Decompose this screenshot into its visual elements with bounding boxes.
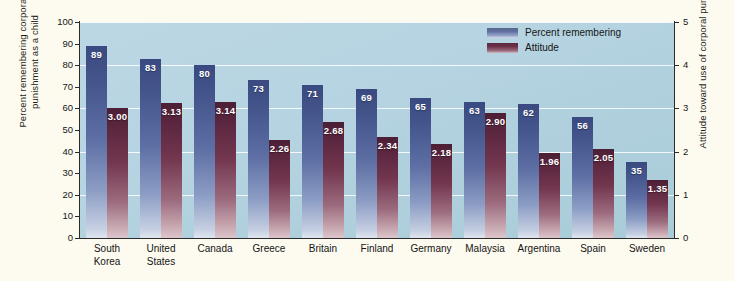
bar-attitude[interactable]: 1.96: [539, 153, 560, 238]
y-axis-right-tick-label: 4: [683, 59, 703, 70]
bar-value-label: 89: [86, 49, 107, 60]
bar-attitude[interactable]: 2.05: [593, 149, 614, 238]
legend-item[interactable]: Attitude: [487, 42, 621, 53]
bar-value-label: 3.13: [161, 106, 182, 117]
y-axis-left-title: Percent remembering corporal punishment …: [17, 0, 41, 167]
bar-value-label: 2.34: [377, 140, 398, 151]
bar-attitude[interactable]: 3.14: [215, 102, 236, 238]
bar-percent-remembering[interactable]: 80: [194, 65, 215, 238]
axis-spine-right: [674, 21, 675, 239]
y-axis-left-tick-label: 30: [45, 167, 73, 178]
bar-value-label: 2.90: [485, 116, 506, 127]
bar-value-label: 63: [464, 105, 485, 116]
y-axis-right-tick-label: 1: [683, 189, 703, 200]
bar-group: 652.18: [404, 22, 458, 238]
tick-mark: [75, 152, 79, 153]
bar-value-label: 1.35: [647, 183, 668, 194]
y-axis-left-tick-label: 80: [45, 59, 73, 70]
bar-value-label: 3.14: [215, 105, 236, 116]
chart-figure: Percent remembering corporal punishment …: [0, 0, 734, 281]
tick-mark: [75, 238, 79, 239]
y-axis-left-tick-label: 20: [45, 189, 73, 200]
tick-mark: [75, 130, 79, 131]
tick-mark: [75, 195, 79, 196]
bar-attitude[interactable]: 2.18: [431, 144, 452, 238]
bar-group: 692.34: [350, 22, 404, 238]
bar-value-label: 2.68: [323, 125, 344, 136]
bar-group: 803.14: [188, 22, 242, 238]
legend-color-swatch: [487, 28, 518, 38]
bar-value-label: 1.96: [539, 156, 560, 167]
legend-item[interactable]: Percent remembering: [487, 27, 621, 38]
chart-legend: Percent rememberingAttitude: [487, 27, 621, 57]
bar-attitude[interactable]: 3.13: [161, 103, 182, 238]
bar-attitude[interactable]: 1.35: [647, 180, 668, 238]
y-axis-right-tick-label: 2: [683, 146, 703, 157]
axis-spine-left: [79, 21, 80, 239]
bar-percent-remembering[interactable]: 63: [464, 102, 485, 238]
tick-mark: [75, 44, 79, 45]
bar-group: 732.26: [242, 22, 296, 238]
tick-mark: [75, 87, 79, 88]
tick-mark: [675, 22, 679, 23]
bar-value-label: 71: [302, 88, 323, 99]
bar-value-label: 65: [410, 101, 431, 112]
tick-mark: [75, 173, 79, 174]
bar-value-label: 2.18: [431, 147, 452, 158]
tick-mark: [675, 65, 679, 66]
tick-mark: [75, 65, 79, 66]
bar-percent-remembering[interactable]: 35: [626, 162, 647, 238]
bar-value-label: 73: [248, 83, 269, 94]
y-axis-left-tick-label: 10: [45, 210, 73, 221]
x-axis-tick-label: Sweden: [612, 243, 682, 256]
y-axis-right-tick-label: 5: [683, 16, 703, 27]
y-axis-left-tick-label: 0: [45, 232, 73, 243]
bar-group: 351.35: [620, 22, 674, 238]
bar-group: 712.68: [296, 22, 350, 238]
y-axis-left-tick-label: 60: [45, 102, 73, 113]
y-axis-left-tick-label: 40: [45, 146, 73, 157]
bar-value-label: 35: [626, 165, 647, 176]
tick-mark: [75, 22, 79, 23]
axis-spine-bottom: [79, 238, 675, 239]
bar-value-label: 2.05: [593, 152, 614, 163]
legend-label: Attitude: [525, 42, 559, 53]
bar-attitude[interactable]: 2.68: [323, 122, 344, 238]
bar-value-label: 62: [518, 107, 539, 118]
y-axis-left-tick-label: 50: [45, 124, 73, 135]
bar-percent-remembering[interactable]: 65: [410, 98, 431, 238]
tick-mark: [675, 238, 679, 239]
bar-percent-remembering[interactable]: 69: [356, 89, 377, 238]
tick-mark: [75, 216, 79, 217]
bar-group: 893.00: [80, 22, 134, 238]
tick-mark: [675, 195, 679, 196]
tick-mark: [675, 108, 679, 109]
bar-attitude[interactable]: 3.00: [107, 108, 128, 238]
bar-value-label: 3.00: [107, 111, 128, 122]
legend-label: Percent remembering: [525, 27, 621, 38]
bar-percent-remembering[interactable]: 71: [302, 85, 323, 238]
bar-value-label: 80: [194, 68, 215, 79]
bar-value-label: 83: [140, 62, 161, 73]
bar-percent-remembering[interactable]: 73: [248, 80, 269, 238]
y-axis-right-tick-label: 3: [683, 102, 703, 113]
y-axis-left-tick-label: 100: [45, 16, 73, 27]
y-axis-left-tick-label: 90: [45, 38, 73, 49]
bar-value-label: 56: [572, 120, 593, 131]
bar-attitude[interactable]: 2.90: [485, 113, 506, 238]
bar-percent-remembering[interactable]: 62: [518, 104, 539, 238]
bar-attitude[interactable]: 2.34: [377, 137, 398, 238]
bar-value-label: 2.26: [269, 143, 290, 154]
tick-mark: [675, 152, 679, 153]
tick-mark: [75, 108, 79, 109]
bar-group: 833.13: [134, 22, 188, 238]
bar-value-label: 69: [356, 92, 377, 103]
legend-color-swatch: [487, 43, 518, 53]
bar-percent-remembering[interactable]: 83: [140, 59, 161, 238]
bar-attitude[interactable]: 2.26: [269, 140, 290, 238]
y-axis-left-tick-label: 70: [45, 81, 73, 92]
y-axis-right-tick-label: 0: [683, 232, 703, 243]
bar-percent-remembering[interactable]: 89: [86, 46, 107, 238]
bar-percent-remembering[interactable]: 56: [572, 117, 593, 238]
